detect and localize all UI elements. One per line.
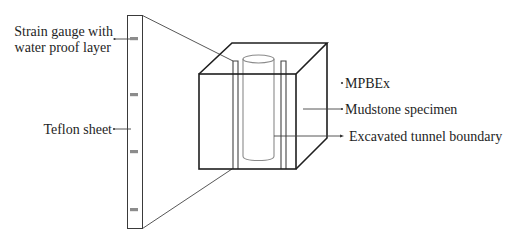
strain-gauge-1 (130, 37, 138, 40)
right-rod (281, 61, 286, 169)
mudstone-leader-dot (341, 108, 343, 110)
tunnel-cylinder (243, 55, 274, 161)
strain-gauge-3 (130, 150, 138, 153)
teflon-sheet (128, 16, 143, 229)
diagram-canvas: Strain gauge with water proof layer Tefl… (0, 0, 522, 244)
mpbex-box (199, 43, 327, 169)
projection-line-bottom (143, 169, 233, 229)
label-mpbex: MPBEx (345, 76, 390, 91)
label-teflon-sheet: Teflon sheet (43, 122, 112, 137)
label-strain-gauge-line1: Strain gauge with (14, 24, 113, 39)
box-right-face (296, 43, 327, 169)
left-rod (233, 61, 238, 169)
cylinder-top-ellipse (243, 55, 274, 63)
tunnel-boundary-arrow-icon (340, 135, 344, 138)
label-strain-gauge-line2: water proof layer (15, 40, 112, 55)
diagram-svg: Strain gauge with water proof layer Tefl… (0, 0, 522, 244)
box-top-face (199, 43, 327, 74)
label-mudstone-specimen: Mudstone specimen (345, 102, 457, 117)
label-excavated-tunnel-boundary: Excavated tunnel boundary (349, 129, 502, 144)
strain-gauge-2 (130, 93, 138, 96)
strain-gauge-4 (130, 208, 138, 211)
mpbex-leader-dot (341, 82, 343, 84)
teflon-sheet-outline (128, 16, 143, 229)
